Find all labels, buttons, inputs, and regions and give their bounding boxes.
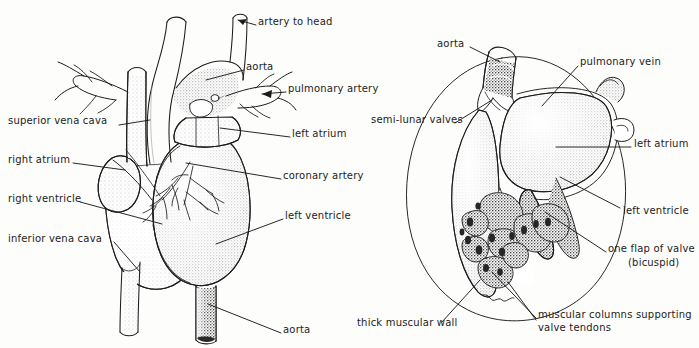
label-left-ventricle-section: left ventricle	[623, 205, 689, 217]
label-one-flap-of-valve: one flap of valve	[608, 243, 695, 255]
label-coronary-artery: coronary artery	[283, 170, 364, 182]
label-superior-vena-cava: superior vena cava	[8, 115, 107, 127]
section-heart-drawing	[406, 47, 634, 321]
label-right-ventricle: right ventricle	[8, 193, 81, 205]
label-artery-to-head: artery to head	[258, 16, 333, 28]
label-left-atrium-section: left atrium	[634, 138, 689, 150]
label-muscular-columns-line2: valve tendons	[538, 322, 611, 334]
label-pulmonary-vein: pulmonary vein	[580, 56, 661, 68]
label-inferior-vena-cava: inferior vena cava	[8, 233, 102, 245]
label-aorta-bottom: aorta	[283, 324, 310, 336]
label-muscular-columns-line1: muscular columns supporting	[538, 309, 692, 321]
label-semi-lunar-valves: semi-lunar valves	[371, 114, 463, 126]
label-left-atrium-external: left atrium	[292, 128, 347, 140]
figure-canvas: artery to head aorta pulmonary artery su…	[0, 0, 699, 348]
label-aorta-top: aorta	[246, 61, 273, 73]
label-thick-muscular-wall: thick muscular wall	[357, 317, 458, 329]
label-left-ventricle-external: left ventricle	[285, 210, 351, 222]
label-bicuspid: (bicuspid)	[628, 257, 679, 269]
label-aorta-section: aorta	[437, 38, 464, 50]
label-right-atrium: right atrium	[8, 154, 70, 166]
label-pulmonary-artery: pulmonary artery	[288, 83, 379, 95]
